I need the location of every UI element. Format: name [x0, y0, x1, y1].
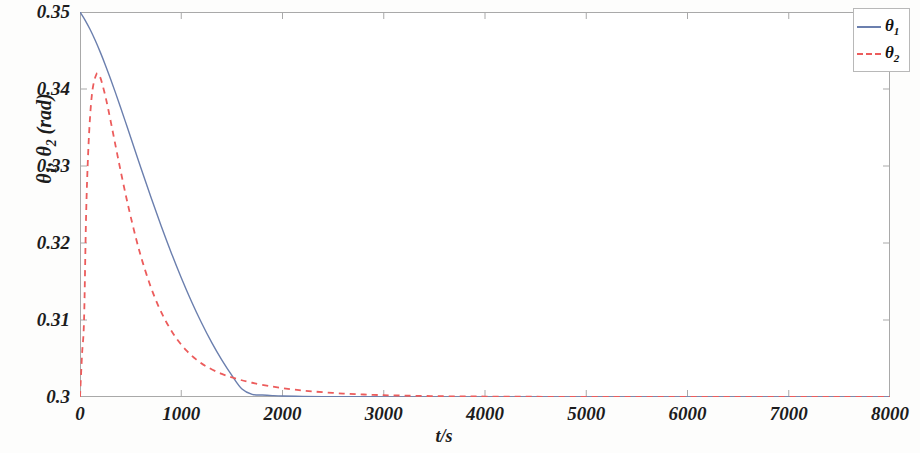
- chart-figure: 0.30.310.320.330.340.35 0100020003000400…: [0, 0, 920, 453]
- y-tick-label: 0.31: [0, 309, 70, 331]
- legend-label-theta1: θ1: [885, 17, 899, 38]
- x-tick-label: 7000: [770, 403, 808, 425]
- axis-tick-marks: [80, 12, 890, 397]
- x-tick-label: 2000: [264, 403, 302, 425]
- legend-label-theta2: θ2: [885, 44, 899, 65]
- legend-swatch-theta2: [857, 53, 881, 55]
- series-line-θ₂: [80, 73, 890, 397]
- legend-item-theta2: θ2: [857, 45, 899, 63]
- y-axis-title-text: θ1, θ2 (rad): [33, 93, 55, 183]
- x-tick-label: 0: [75, 403, 85, 425]
- x-tick-label: 5000: [567, 403, 605, 425]
- x-tick-label: 6000: [669, 403, 707, 425]
- legend-item-theta1: θ1: [857, 18, 899, 36]
- legend-swatch-theta1: [857, 26, 881, 28]
- x-tick-label: 4000: [466, 403, 504, 425]
- series-line-θ₁: [80, 12, 890, 397]
- x-tick-label: 1000: [162, 403, 200, 425]
- x-axis-title: t/s: [0, 426, 920, 447]
- x-tick-label: 3000: [365, 403, 403, 425]
- plot-curves: [80, 12, 890, 397]
- data-series-group: [80, 12, 890, 397]
- x-axis-title-text: t/s: [435, 426, 452, 446]
- y-axis-title: θ1, θ2 (rad): [33, 9, 60, 269]
- legend: θ1 θ2: [853, 8, 910, 72]
- x-tick-label: 8000: [871, 403, 909, 425]
- y-tick-label: 0.3: [0, 386, 70, 408]
